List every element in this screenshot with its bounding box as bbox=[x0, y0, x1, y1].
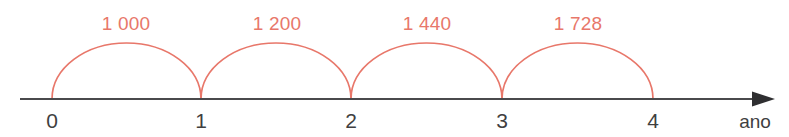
number-line-diagram: 1 0001 2001 4401 728 01234 ano bbox=[0, 0, 789, 137]
axis-tick-label-1: 1 bbox=[195, 110, 207, 131]
arc-segment bbox=[351, 43, 502, 99]
axis-tick-label-2: 2 bbox=[345, 110, 357, 131]
arcs-group bbox=[52, 43, 653, 99]
axis-group bbox=[20, 92, 775, 107]
arc-value-label: 1 200 bbox=[253, 14, 302, 33]
arc-value-label: 1 440 bbox=[403, 14, 452, 33]
arc-value-label: 1 000 bbox=[102, 14, 151, 33]
arc-segment bbox=[52, 43, 201, 99]
axis-name-label: ano bbox=[739, 112, 771, 131]
axis-tick-label-3: 3 bbox=[496, 110, 508, 131]
axis-tick-label-0: 0 bbox=[46, 110, 58, 131]
arc-segment bbox=[502, 43, 653, 99]
arc-value-label: 1 728 bbox=[554, 14, 603, 33]
arrow-right-icon bbox=[752, 92, 775, 107]
arc-segment bbox=[201, 43, 351, 99]
axis-tick-label-4: 4 bbox=[647, 110, 659, 131]
